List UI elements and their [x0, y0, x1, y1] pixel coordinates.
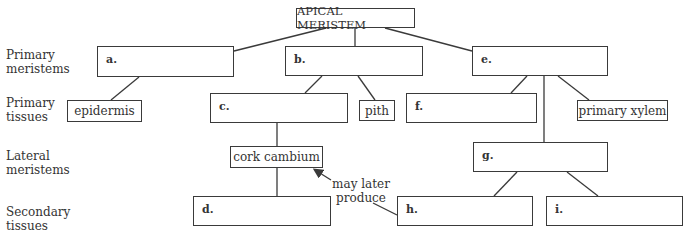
- line-b-pith: [358, 76, 375, 100]
- node-b-blank: b.: [285, 46, 423, 76]
- node-label: epidermis: [74, 104, 135, 118]
- annotation-line: produce: [330, 191, 392, 205]
- row-label-line: tissues: [6, 110, 55, 124]
- node-tag: a.: [106, 53, 117, 66]
- row-label-line: meristems: [6, 163, 70, 177]
- node-d-blank: d.: [193, 196, 331, 226]
- annotation-may-later-produce: may later produce: [330, 177, 392, 205]
- node-h-blank: h.: [397, 196, 533, 226]
- node-label: cork cambium: [233, 150, 320, 164]
- node-tag: b.: [294, 53, 306, 66]
- row-label-lateral-meristems: Lateral meristems: [6, 149, 70, 177]
- node-tag: f.: [415, 100, 423, 113]
- node-epidermis: epidermis: [67, 100, 142, 122]
- row-label-line: tissues: [6, 219, 70, 233]
- arrow-to-cork: [315, 170, 331, 180]
- node-tag: i.: [555, 203, 563, 216]
- row-label-secondary-tissues: Secondary tissues: [6, 205, 70, 233]
- node-apical-meristem: APICAL MERISTEM: [296, 8, 415, 28]
- line-e-f: [511, 76, 527, 93]
- line-g-h: [494, 172, 517, 196]
- row-label-line: meristems: [6, 62, 70, 76]
- node-a-blank: a.: [97, 46, 234, 77]
- node-label: APICAL MERISTEM: [297, 4, 414, 32]
- node-label: primary xylem: [579, 104, 667, 118]
- row-label-line: Primary: [6, 48, 70, 62]
- row-label-line: Lateral: [6, 149, 70, 163]
- node-tag: g.: [482, 149, 494, 162]
- node-label: pith: [365, 104, 389, 118]
- node-tag: h.: [406, 203, 418, 216]
- line-a-epidermis: [111, 77, 139, 100]
- line-g-i: [567, 172, 598, 196]
- node-e-blank: e.: [472, 46, 608, 76]
- row-label-line: Secondary: [6, 205, 70, 219]
- node-tag: d.: [202, 203, 214, 216]
- row-label-primary-meristems: Primary meristems: [6, 48, 70, 76]
- node-primary-xylem: primary xylem: [577, 100, 668, 121]
- line-e-xylem: [558, 76, 589, 100]
- node-f-blank: f.: [406, 93, 537, 123]
- node-g-blank: g.: [473, 142, 608, 172]
- annotation-line: may later: [330, 177, 392, 191]
- node-c-blank: c.: [210, 93, 348, 123]
- node-cork-cambium: cork cambium: [230, 146, 323, 168]
- node-i-blank: i.: [546, 196, 683, 226]
- row-label-line: Primary: [6, 96, 55, 110]
- node-tag: c.: [219, 100, 230, 113]
- node-tag: e.: [481, 53, 492, 66]
- node-pith: pith: [359, 100, 395, 121]
- line-b-c: [305, 76, 322, 93]
- row-label-primary-tissues: Primary tissues: [6, 96, 55, 124]
